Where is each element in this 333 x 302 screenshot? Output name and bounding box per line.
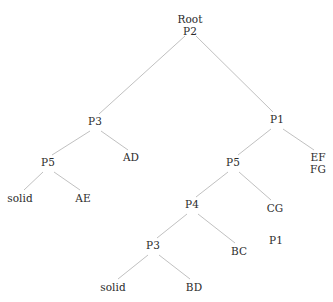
tree-node-label: P1 bbox=[270, 113, 284, 125]
tree-edge-p5-right-to-p4-node bbox=[196, 172, 228, 197]
tree-diagram: RootP2P3P1P5ADsolidAEP5EFFGP4CGP3BCP1sol… bbox=[0, 0, 333, 302]
tree-edge-p3-lower-to-bd-leaf bbox=[159, 255, 190, 279]
tree-edge-p5-left-to-solid-left bbox=[24, 172, 43, 190]
tree-node-label: P1 bbox=[269, 234, 283, 246]
tree-edge-p3-lower-to-solid-lower bbox=[118, 255, 148, 279]
tree-edge-p5-left-to-ae-leaf bbox=[54, 172, 80, 190]
tree-node-p3-left: P3 bbox=[88, 116, 102, 128]
tree-node-solid-lower: solid bbox=[100, 282, 126, 294]
tree-node-sublabel: P2 bbox=[177, 26, 202, 38]
tree-edge-p1-right-to-effg-leaf bbox=[283, 129, 314, 150]
tree-node-p3-lower: P3 bbox=[146, 240, 160, 252]
tree-node-cg-leaf: CG bbox=[267, 203, 284, 215]
tree-edge-root-to-p1-right bbox=[196, 36, 273, 112]
tree-node-label: CG bbox=[267, 202, 284, 214]
tree-node-bc-leaf: BC bbox=[231, 246, 247, 258]
tree-node-effg-leaf: EFFG bbox=[310, 152, 326, 175]
tree-node-label: AE bbox=[75, 192, 90, 204]
tree-edge-root-to-p3-left bbox=[99, 36, 185, 114]
tree-node-root: RootP2 bbox=[177, 14, 202, 37]
tree-node-label: BC bbox=[231, 245, 247, 257]
tree-node-label: AD bbox=[123, 151, 139, 163]
tree-node-label: BD bbox=[186, 281, 202, 293]
tree-node-label: P3 bbox=[146, 239, 160, 251]
tree-node-label: P5 bbox=[41, 156, 55, 168]
tree-node-label: P3 bbox=[88, 115, 102, 127]
tree-edge-layer bbox=[0, 0, 333, 302]
tree-node-sublabel: FG bbox=[310, 164, 326, 176]
tree-node-p5-right: P5 bbox=[226, 157, 240, 169]
tree-node-solid-left: solid bbox=[7, 193, 33, 205]
tree-edge-p3-left-to-p5-left bbox=[52, 131, 90, 155]
tree-node-label: solid bbox=[100, 281, 126, 293]
tree-edge-p4-node-to-bc-leaf bbox=[198, 214, 235, 243]
tree-edge-p5-right-to-cg-leaf bbox=[239, 172, 271, 200]
tree-node-p5-left: P5 bbox=[41, 157, 55, 169]
tree-node-label: EF bbox=[310, 151, 325, 163]
tree-edge-p3-left-to-ad-leaf bbox=[101, 131, 128, 150]
tree-node-p1-floating: P1 bbox=[269, 235, 283, 247]
tree-node-bd-leaf: BD bbox=[186, 282, 202, 294]
tree-node-label: solid bbox=[7, 192, 33, 204]
tree-edge-p1-right-to-p5-right bbox=[238, 129, 271, 155]
tree-edge-p4-node-to-p3-lower bbox=[157, 214, 187, 238]
tree-node-label: P4 bbox=[185, 198, 199, 210]
tree-node-ae-leaf: AE bbox=[75, 193, 90, 205]
tree-node-label: P5 bbox=[226, 156, 240, 168]
tree-node-p1-right: P1 bbox=[270, 114, 284, 126]
tree-node-ad-leaf: AD bbox=[123, 152, 139, 164]
tree-node-label: Root bbox=[177, 13, 202, 25]
tree-node-p4-node: P4 bbox=[185, 199, 199, 211]
